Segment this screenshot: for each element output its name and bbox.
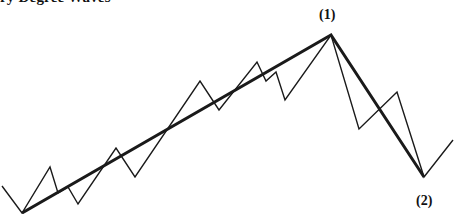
wave-label-1: (1) bbox=[319, 7, 335, 23]
wave-label-2: (2) bbox=[416, 193, 432, 209]
wave-diagram bbox=[0, 0, 455, 214]
